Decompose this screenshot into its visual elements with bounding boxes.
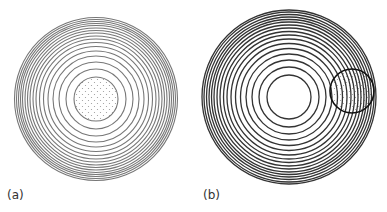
ring <box>259 67 319 127</box>
ring <box>241 49 338 146</box>
ring <box>267 75 311 119</box>
figure-canvas <box>0 0 387 212</box>
panel-a-label: (a) <box>7 188 24 202</box>
panel-b-label: (b) <box>203 188 220 202</box>
panel-a-rings <box>15 18 178 181</box>
ring <box>252 60 326 134</box>
ring <box>231 39 347 155</box>
panel-b-rings <box>202 10 376 184</box>
